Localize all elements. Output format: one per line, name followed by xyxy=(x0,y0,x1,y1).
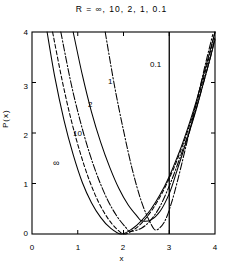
plot-figure: R = ∞, 10, 2, 1, 0.1 P(x) x 0 1 2 3 4 0 … xyxy=(0,0,243,273)
curve-label-2: 2 xyxy=(88,100,92,109)
plot-area xyxy=(0,0,243,273)
curve-2 xyxy=(61,32,215,231)
curve-label-1: 1 xyxy=(108,77,112,86)
curve-label-4: ∞ xyxy=(53,158,59,168)
curve-label-0: 0.1 xyxy=(150,60,161,69)
curve-label-3: 10 xyxy=(73,129,82,138)
